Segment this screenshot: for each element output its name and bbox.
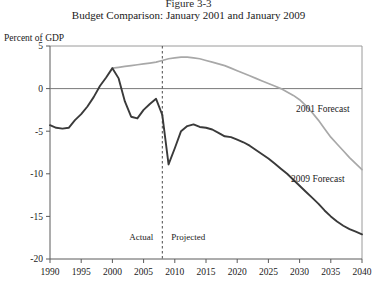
y-tick-label: 5 [38,41,43,51]
figure-container: Figure 3-3 Budget Comparison: January 20… [0,0,377,281]
series-label-2001-forecast: 2001 Forecast [296,104,350,114]
x-tick-label: 2005 [134,267,153,277]
series-line-2 [50,68,162,128]
data-series-group [50,57,362,234]
chart-text-labels: 50-5-10-15-20199019952000200520102015202… [30,41,371,277]
projected-label: Projected [171,232,205,242]
x-tick-label: 2010 [165,267,184,277]
x-tick-label: 2040 [353,267,372,277]
y-tick-label: -5 [35,127,43,137]
y-tick-label: 0 [38,84,43,94]
axis-ticks [46,46,362,263]
actual-label: Actual [129,232,153,242]
x-tick-label: 2000 [103,267,122,277]
plot-frame [50,46,362,259]
chart-plot: 50-5-10-15-20199019952000200520102015202… [0,0,377,281]
series-label-2009-forecast: 2009 Forecast [291,174,345,184]
x-tick-label: 2030 [290,267,309,277]
y-tick-label: -20 [30,254,43,264]
x-tick-label: 2020 [228,267,247,277]
x-tick-label: 2035 [321,267,340,277]
y-tick-label: -10 [30,169,43,179]
x-tick-label: 1995 [72,267,91,277]
x-tick-label: 2025 [259,267,278,277]
x-tick-label: 2015 [197,267,216,277]
x-tick-label: 1990 [41,267,60,277]
y-tick-label: -15 [30,212,43,222]
